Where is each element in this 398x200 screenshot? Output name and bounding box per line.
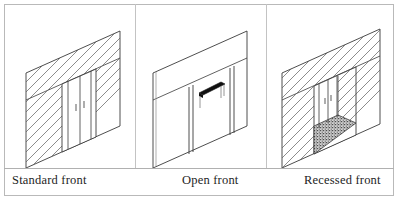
caption-row: Standard front Open front Recessed front (4, 169, 394, 195)
caption-standard-front: Standard front (12, 173, 87, 188)
figure-border-bottom (4, 195, 394, 196)
figure-storefront-types: Standard front Open front Recessed front (0, 0, 398, 200)
caption-open-front: Open front (182, 173, 239, 188)
drawing-recessed-front (266, 4, 397, 168)
drawing-standard-front (4, 4, 135, 168)
caption-recessed-front: Recessed front (304, 173, 381, 188)
drawing-open-front (135, 4, 266, 168)
